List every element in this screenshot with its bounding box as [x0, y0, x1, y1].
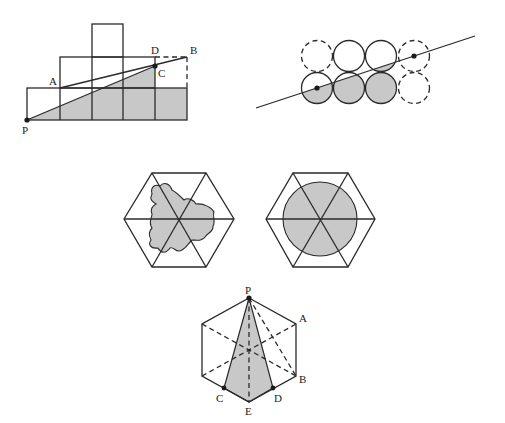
top-cell: [92, 24, 123, 57]
cutting-line: [256, 36, 475, 108]
label-D: D: [151, 44, 159, 56]
figure-staircase-grid: P A D C B: [22, 24, 197, 136]
point-C: [152, 63, 157, 68]
point-P: [246, 295, 251, 300]
diagram-canvas: P A D C B: [0, 0, 505, 423]
label-B: B: [299, 373, 306, 385]
label-A: A: [49, 75, 57, 87]
irregular-shaded-region: [149, 183, 214, 252]
circle-top-2: [334, 41, 365, 72]
label-C: C: [216, 392, 223, 404]
label-A: A: [299, 312, 307, 324]
figure-hexagon-triangle: P A B C D E: [202, 284, 307, 417]
label-C: C: [158, 67, 165, 79]
label-B: B: [190, 44, 197, 56]
circle-top-1: [302, 41, 333, 72]
figure-hexagon-circle: [266, 173, 375, 267]
point-P: [24, 117, 29, 122]
figure-circle-array: [256, 36, 475, 108]
label-D: D: [274, 392, 282, 404]
center-point-1: [314, 85, 319, 90]
label-E: E: [245, 405, 252, 417]
center-point-2: [411, 53, 416, 58]
point-D: [271, 386, 276, 391]
figure-hexagon-blob: [124, 173, 234, 267]
label-P: P: [22, 124, 28, 136]
point-C: [222, 386, 227, 391]
circle-bottom-4: [399, 73, 430, 104]
label-P: P: [245, 284, 251, 296]
